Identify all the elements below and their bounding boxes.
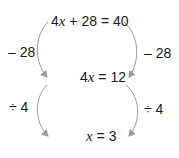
equation-step-2: 4x = 12 [80, 70, 126, 85]
operation-right-2: ÷ 4 [144, 102, 163, 116]
coefficient: 4 [80, 69, 88, 85]
operation-right-1: – 28 [144, 46, 171, 60]
variable: x [86, 128, 93, 144]
operation-left-1: – 28 [8, 45, 35, 59]
equation-rest: = 3 [93, 128, 117, 144]
arrow-left-step1 [37, 22, 48, 77]
equation-step-1: 4x + 28 = 40 [51, 14, 129, 29]
equation-rest: = 12 [94, 69, 126, 85]
coefficient: 4 [51, 13, 59, 29]
operation-left-2: ÷ 4 [9, 100, 28, 114]
equation-step-3: x = 3 [86, 129, 116, 144]
equation-rest: + 28 = 40 [65, 13, 128, 29]
arrow-right-step2 [126, 85, 138, 136]
arrow-left-step2 [37, 85, 48, 136]
